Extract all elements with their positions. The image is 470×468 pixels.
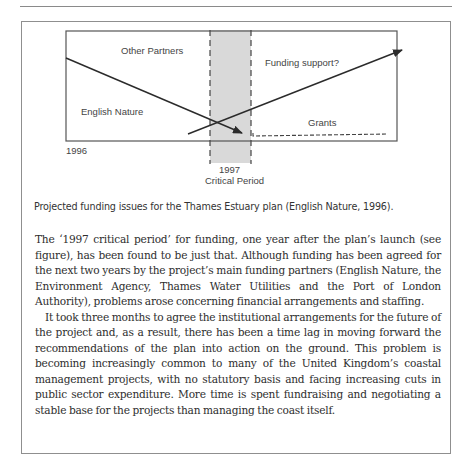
label-funding-support: Funding support? xyxy=(265,57,339,68)
critical-period-band xyxy=(210,30,251,163)
funding-diagram: Other Partners English Nature Funding su… xyxy=(0,0,470,200)
paragraph-1: The ‘1997 critical period’ for funding, … xyxy=(35,232,441,310)
label-critical-period: Critical Period xyxy=(205,175,264,186)
body-text: The ‘1997 critical period’ for funding, … xyxy=(35,232,441,418)
figure-caption: Projected funding issues for the Thames … xyxy=(34,201,393,212)
label-year-1997: 1997 xyxy=(219,164,240,175)
grants-dashed-line xyxy=(253,133,388,136)
label-year-1996: 1996 xyxy=(66,145,87,156)
label-grants: Grants xyxy=(308,117,337,128)
label-english-nature: English Nature xyxy=(81,106,143,117)
paragraph-2: It took three months to agree the instit… xyxy=(35,310,441,419)
label-other-partners: Other Partners xyxy=(121,45,183,56)
